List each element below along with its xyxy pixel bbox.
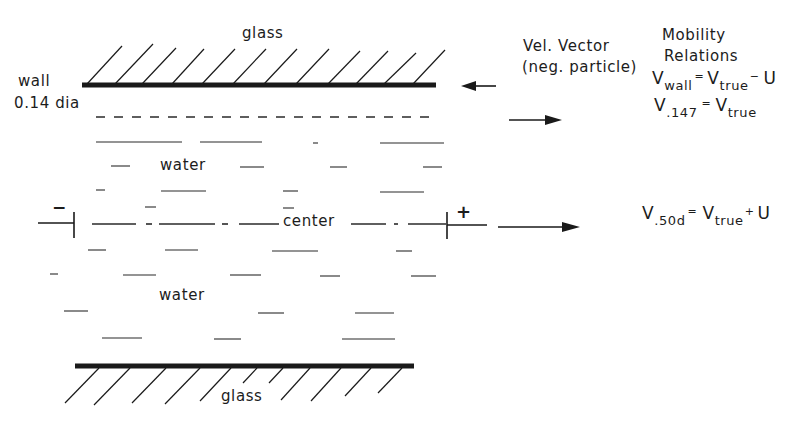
positive-electrode: + [447,201,487,239]
diagram-canvas: glass wall 0.14 dia [0,0,807,427]
upper-water-label: water [160,156,206,174]
stationary-layer-velocity-arrow [509,115,562,125]
wall-velocity-arrow [461,81,496,91]
mobility-relations: Mobility Relations Vwall=Vtrue−U V.147=V… [642,26,777,228]
top-glass-wall: glass wall [18,24,445,90]
vel-vector-subtitle: (neg. particle) [522,58,637,76]
relation-wall: Vwall=Vtrue−U [652,68,777,93]
stationary-layer-label: 0.14 dia [14,94,80,112]
relation-stationary-layer: V.147=Vtrue [654,95,757,120]
negative-sign: − [52,197,67,217]
center-velocity-arrow [498,222,580,232]
wall-label: wall [18,72,50,90]
mobility-title: Mobility [662,26,726,44]
lower-water-label: water [159,286,205,304]
top-hatch-lines [87,44,445,84]
bottom-glass-label: glass [221,387,263,405]
water-ripple-dashes-lower [50,250,436,339]
stationary-layer: 0.14 dia [14,94,436,117]
center-label: center [283,212,335,230]
velocity-vectors: Vel. Vector (neg. particle) [461,37,637,232]
center-line: − center + [38,197,487,239]
water-ripple-dashes [96,142,444,208]
electrophoresis-cell-diagram: glass wall 0.14 dia [0,0,807,427]
relation-center: V.50d=Vtrue+U [642,203,771,228]
positive-sign: + [456,201,472,222]
vel-vector-title: Vel. Vector [523,37,610,55]
negative-electrode: − [38,197,74,238]
top-glass-label: glass [242,24,284,42]
lower-water-region: water [50,250,436,339]
mobility-subtitle: Relations [664,47,738,65]
bottom-glass-wall: glass [65,366,414,405]
upper-water-region: water [96,142,444,208]
